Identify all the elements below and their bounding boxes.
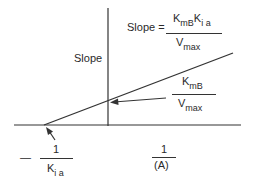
x-intercept-fraction-bar <box>40 158 73 159</box>
slope-equation-numerator: KmBKi a <box>173 13 211 25</box>
x-intercept-denominator: Ki a <box>47 163 64 175</box>
x-intercept-arrowhead <box>46 127 53 135</box>
y-intercept-fraction-bar <box>172 94 216 95</box>
y-intercept-denominator: Vmax <box>178 98 202 110</box>
x-axis-label-fraction-bar <box>152 157 176 158</box>
x-axis-label-denominator: (A) <box>154 160 169 171</box>
x-intercept-numerator: 1 <box>53 144 59 155</box>
slope-fraction-bar <box>166 33 222 34</box>
x-axis-label-numerator: 1 <box>161 144 167 155</box>
y-intercept-arrow <box>114 98 166 102</box>
x-intercept-sign: — <box>20 152 31 163</box>
slope-equation-denominator: Vmax <box>176 37 200 49</box>
y-axis-label: Slope <box>74 53 102 64</box>
slope-equation-lhs: Slope = <box>127 22 165 33</box>
y-intercept-numerator: KmB <box>182 76 203 88</box>
data-line <box>44 53 233 125</box>
